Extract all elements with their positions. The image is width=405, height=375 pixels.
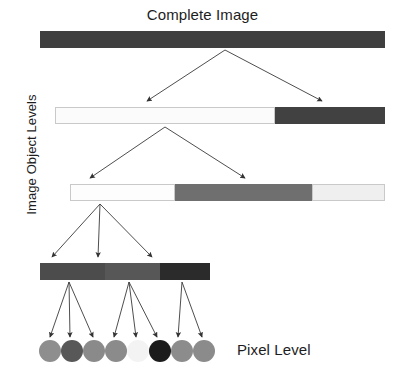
arrow-l4c-to-pixel-7 <box>178 282 182 337</box>
arrow-l2-to-l3-left <box>90 127 165 178</box>
arrow-l3-to-l4-middle <box>98 204 100 257</box>
arrow-l4c-to-pixel-8 <box>182 282 202 337</box>
arrow-l3-to-l4-right <box>100 204 152 257</box>
arrow-l1-to-l2-right <box>225 50 322 101</box>
hierarchy-diagram: Complete Image Image Object Levels Pixel… <box>0 0 405 375</box>
arrow-l4b-to-pixel-4 <box>114 282 129 337</box>
arrow-l2-to-l3-right <box>165 127 245 178</box>
arrow-l3-to-l4-left <box>52 204 100 257</box>
arrow-l4a-to-pixel-1 <box>50 282 69 337</box>
arrow-l4b-to-pixel-6 <box>129 282 157 337</box>
arrow-l4b-to-pixel-5 <box>129 282 136 337</box>
arrow-connectors <box>0 0 405 375</box>
arrow-l4a-to-pixel-3 <box>69 282 93 337</box>
arrow-l1-to-l2-left <box>147 50 225 101</box>
arrow-l4a-to-pixel-2 <box>69 282 70 337</box>
